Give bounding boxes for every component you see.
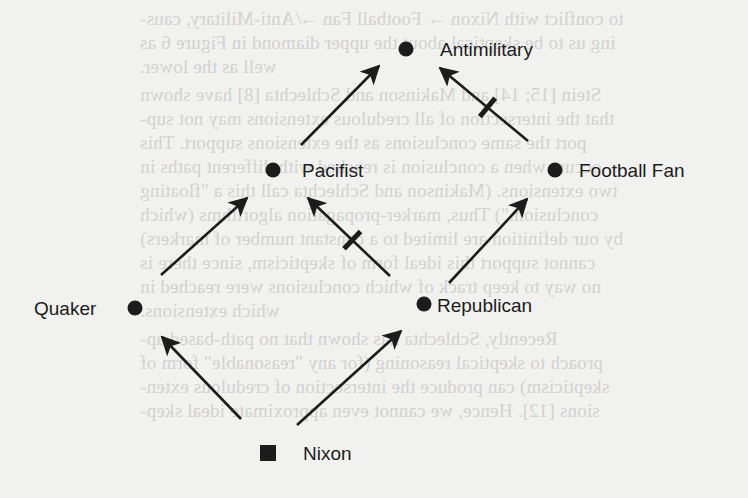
inheritance-network-diagram: AntimilitaryPacifistFootball FanQuakerRe… xyxy=(0,0,748,498)
node-label: Republican xyxy=(437,295,532,316)
edge-republican-to-football_fan xyxy=(449,199,527,283)
edges-group xyxy=(161,66,528,425)
circle-node-icon xyxy=(266,163,281,178)
arrow-icon xyxy=(449,199,527,283)
circle-node-icon xyxy=(548,163,563,178)
arrow-icon xyxy=(297,331,401,425)
node-label: Quaker xyxy=(34,298,97,319)
edge-nixon-to-republican xyxy=(297,331,401,425)
node-republican: Republican xyxy=(417,295,533,316)
node-label: Nixon xyxy=(303,443,352,464)
node-label: Football Fan xyxy=(579,160,685,181)
arrow-icon xyxy=(308,198,390,276)
circle-node-icon xyxy=(128,301,143,316)
node-label: Antimilitary xyxy=(440,39,533,60)
circle-node-icon xyxy=(399,42,414,57)
node-nixon: Nixon xyxy=(260,443,352,464)
node-quaker: Quaker xyxy=(34,298,143,319)
nodes-group: AntimilitaryPacifistFootball FanQuakerRe… xyxy=(34,39,685,464)
node-pacifist: Pacifist xyxy=(266,160,364,181)
circle-node-icon xyxy=(417,297,432,312)
node-label: Pacifist xyxy=(302,160,364,181)
edge-quaker-to-pacifist xyxy=(161,198,247,275)
edge-pacifist-to-antimilitary xyxy=(301,66,379,145)
square-node-icon xyxy=(260,445,276,461)
edge-nixon-to-quaker xyxy=(162,337,241,419)
negation-bar-icon xyxy=(480,98,495,116)
arrow-icon xyxy=(162,337,241,419)
node-football_fan: Football Fan xyxy=(548,160,685,181)
arrow-icon xyxy=(301,66,379,145)
edge-republican-to-pacifist-negated xyxy=(308,198,390,276)
arrow-icon xyxy=(440,68,528,141)
arrow-icon xyxy=(161,198,247,275)
node-antimilitary: Antimilitary xyxy=(399,39,534,60)
edge-football_fan-to-antimilitary-negated xyxy=(440,68,528,141)
